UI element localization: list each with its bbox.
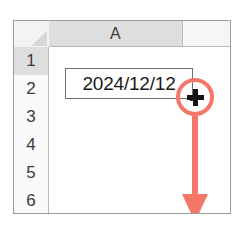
spreadsheet-frame: A 1 2 3 4 5 6 2024/12/12 — [13, 20, 231, 214]
row-header-3[interactable]: 3 — [14, 103, 48, 131]
select-all-corner[interactable] — [14, 21, 49, 47]
drag-down-arrow-icon — [182, 116, 208, 214]
column-header-row: A — [14, 21, 230, 47]
column-header-empty-area — [184, 21, 230, 46]
row-header-5[interactable]: 5 — [14, 159, 48, 187]
cell-a1-value: 2024/12/12 — [82, 73, 175, 95]
column-header-a[interactable]: A — [49, 21, 183, 46]
cell-a1[interactable]: 2024/12/12 — [65, 68, 193, 99]
row-header-2[interactable]: 2 — [14, 75, 48, 103]
row-header-column: 1 2 3 4 5 6 — [14, 47, 49, 213]
arrow-head — [182, 194, 208, 214]
cursor-horizontal-bar — [187, 95, 204, 100]
row-header-6[interactable]: 6 — [14, 187, 48, 214]
row-header-4[interactable]: 4 — [14, 131, 48, 159]
arrow-shaft — [192, 116, 198, 198]
fill-crosshair-cursor-icon — [187, 89, 204, 106]
row-header-1[interactable]: 1 — [14, 47, 48, 75]
